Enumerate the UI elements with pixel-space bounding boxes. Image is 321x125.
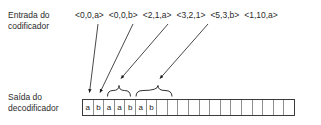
arrow-tuple-3-to-brace-1 <box>121 24 168 79</box>
tape-cell: b <box>94 100 105 115</box>
encoder-tuple: <5,3,b> <box>210 9 239 21</box>
brace-cells-5-7 <box>136 86 172 97</box>
tape-cell: a <box>83 100 94 115</box>
encoder-tuple: <3,2,1> <box>177 9 206 21</box>
tape-cell <box>284 100 294 115</box>
encoder-input-label-line2: codificador <box>8 21 49 31</box>
tape-cell: a <box>104 100 115 115</box>
encoder-input-label: Entrada do codificador <box>8 10 78 32</box>
tape-cell <box>274 100 285 115</box>
tape-cell <box>210 100 221 115</box>
decoder-output-label-line2: decodificador <box>8 103 59 113</box>
decoder-output-label: Saída do decodificador <box>8 92 80 114</box>
encoder-tuple: <1,10,a> <box>244 9 278 21</box>
arrow-tuple-4-to-brace-2 <box>160 24 208 79</box>
encoder-tuple: <0,0,a> <box>75 9 104 21</box>
tape-cell: b <box>147 100 158 115</box>
arrow-tuple-2-to-cell-2 <box>100 24 133 93</box>
brace-cells-3-4 <box>108 86 131 97</box>
tape-cell <box>168 100 179 115</box>
encoder-tuple-row: <0,0,a> <0,0,b> <2,1,a> <3,2,1> <5,3,b> … <box>75 9 321 22</box>
tape-cell <box>189 100 200 115</box>
tape-cell <box>242 100 253 115</box>
encoder-tuple: <0,0,b> <box>109 9 138 21</box>
tape-cell <box>178 100 189 115</box>
tape-cell: a <box>136 100 147 115</box>
tape-cell <box>221 100 232 115</box>
tape-cell: a <box>115 100 126 115</box>
tape-cell <box>253 100 264 115</box>
lz-decoder-diagram: Entrada do codificador Saída do decodifi… <box>0 0 321 125</box>
tape-cell <box>157 100 168 115</box>
tape-cell <box>231 100 242 115</box>
decoder-output-tape: a b a a b a b <box>82 99 295 116</box>
tape-cell <box>200 100 211 115</box>
arrow-tuple-1-to-cell-1 <box>90 24 99 93</box>
tape-cell <box>263 100 274 115</box>
encoder-input-label-line1: Entrada do <box>8 10 50 20</box>
tape-cell: b <box>125 100 136 115</box>
decoder-output-label-line1: Saída do <box>8 92 42 102</box>
encoder-tuple: <2,1,a> <box>143 9 172 21</box>
